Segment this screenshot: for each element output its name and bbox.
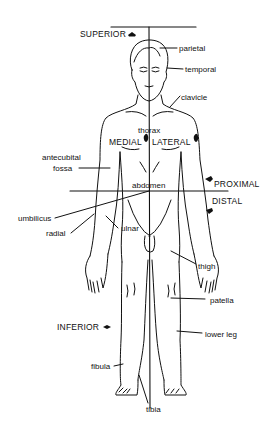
- label-antecubital: antecubital: [42, 153, 81, 162]
- label-clavicle: clavicle: [181, 93, 207, 102]
- label-fossa: fossa: [53, 164, 72, 173]
- leader-radial: [71, 214, 94, 233]
- label-inferior: INFERIOR: [57, 323, 99, 332]
- torso-outline-right: [161, 95, 214, 256]
- leader-umbilicus: [55, 191, 149, 218]
- label-umbilicus: umbilicus: [18, 214, 51, 223]
- lateral-arrow-icon: [194, 134, 199, 142]
- left-leg-inner: [138, 260, 148, 380]
- label-abdomen: abdomen: [132, 181, 165, 190]
- leader-fibula: [114, 364, 123, 366]
- label-temporal: temporal: [185, 65, 216, 74]
- right-leg-inner: [152, 260, 164, 380]
- leader-patella: [171, 298, 205, 299]
- proximal-arrow-icon: [205, 176, 213, 182]
- label-parietal: parietal: [179, 44, 205, 53]
- leader-tibia: [139, 375, 148, 403]
- label-fibula: fibula: [91, 362, 110, 371]
- superior-arrow-icon: [128, 32, 136, 37]
- label-lower-leg: lower leg: [205, 330, 237, 339]
- label-thigh: thigh: [198, 262, 215, 271]
- leader-clavicle: [170, 96, 180, 107]
- leader-temporal: [167, 68, 183, 69]
- label-proximal: PROXIMAL: [214, 180, 260, 189]
- inferior-arrow-icon: [103, 325, 111, 329]
- label-thorax: thorax: [138, 126, 160, 135]
- right-leg-outer: [164, 262, 186, 395]
- label-superior: SUPERIOR: [80, 30, 126, 39]
- label-patella: patella: [210, 296, 234, 305]
- right-hand: [194, 254, 218, 293]
- label-distal: DISTAL: [212, 197, 242, 206]
- label-tibia: tibia: [146, 405, 161, 414]
- label-ulnar: ulnar: [121, 224, 139, 233]
- label-medial: MEDIAL: [109, 138, 142, 147]
- left-leg-outer: [116, 262, 138, 395]
- left-hand: [86, 254, 108, 293]
- leader-ulnar: [106, 216, 118, 228]
- leader-thigh: [171, 251, 196, 264]
- midsagittal-line: [149, 27, 150, 408]
- label-lateral: LATERAL: [152, 138, 191, 147]
- label-radial: radial: [46, 229, 66, 238]
